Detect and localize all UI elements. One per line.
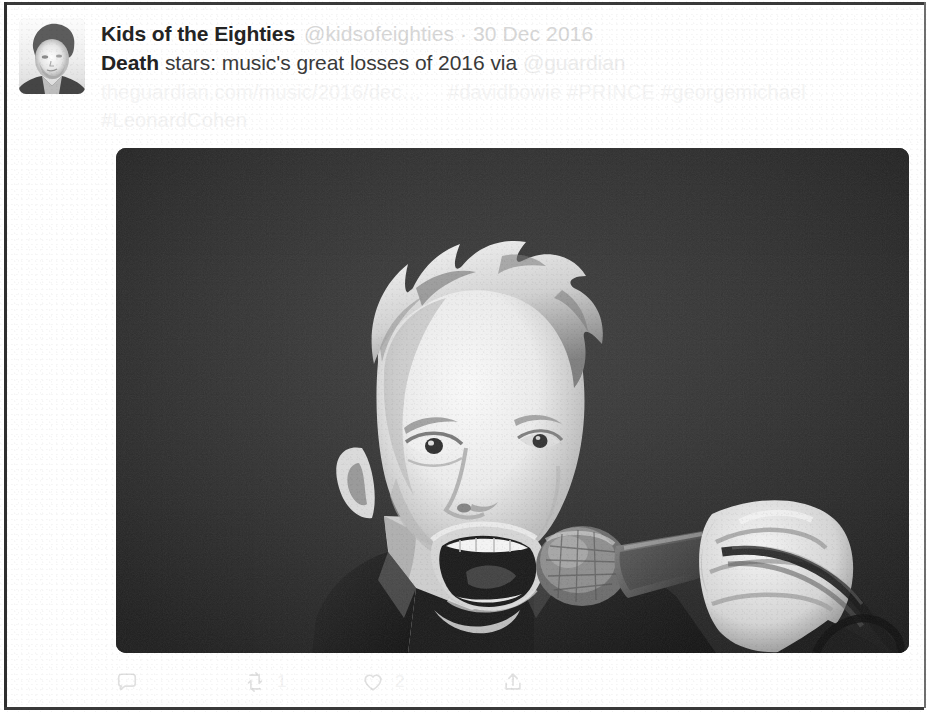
avatar[interactable] — [19, 18, 85, 94]
tweet-hashtags-row-2: #LeonardCohen — [101, 106, 919, 134]
tweet-text-column: Kids of the Eighties@kidsofeighties · 30… — [101, 18, 919, 134]
tweet-header: Kids of the Eighties@kidsofeighties · 30… — [9, 7, 919, 134]
tweet-link-row: theguardian.com/music/2016/dec…#davidbow… — [101, 78, 919, 106]
retweet-button[interactable]: 1 — [244, 667, 362, 697]
share-icon — [502, 671, 524, 693]
page-frame-bottom — [4, 707, 924, 710]
tweet-card[interactable]: Kids of the Eighties@kidsofeighties · 30… — [9, 7, 919, 705]
like-button[interactable]: 2 — [362, 667, 502, 697]
tweet-via-handle[interactable]: @guardian — [523, 51, 626, 74]
retweet-count: 1 — [277, 672, 287, 692]
tweet-photo[interactable] — [116, 148, 909, 653]
tweet-lead-word: Death — [101, 51, 159, 74]
page-frame-left — [4, 2, 7, 708]
share-button[interactable] — [502, 667, 592, 697]
tweet-link[interactable]: theguardian.com/music/2016/dec… — [101, 81, 422, 103]
heart-icon — [362, 671, 384, 693]
author-display-name[interactable]: Kids of the Eighties — [101, 22, 295, 45]
tweet-action-bar: 1 2 — [116, 662, 676, 702]
like-count: 2 — [395, 672, 405, 692]
tweet-hashtags-line-2[interactable]: #LeonardCohen — [101, 109, 247, 131]
tweet-body-main: stars: music's great losses of 2016 via — [159, 51, 523, 74]
scanned-page: Kids of the Eighties@kidsofeighties · 30… — [0, 0, 927, 712]
byline: Kids of the Eighties@kidsofeighties · 30… — [101, 20, 919, 47]
page-frame-right — [924, 2, 926, 708]
tweet-body-text: Death stars: music's great losses of 201… — [101, 49, 919, 77]
reply-button[interactable] — [116, 667, 244, 697]
reply-icon — [116, 671, 138, 693]
tweet-hashtags-line-1[interactable]: #davidbowie #PRINCE #georgemichael — [448, 81, 806, 103]
page-frame-top — [4, 2, 924, 5]
author-handle-and-date[interactable]: @kidsofeighties · 30 Dec 2016 — [304, 22, 593, 45]
retweet-icon — [244, 671, 266, 693]
